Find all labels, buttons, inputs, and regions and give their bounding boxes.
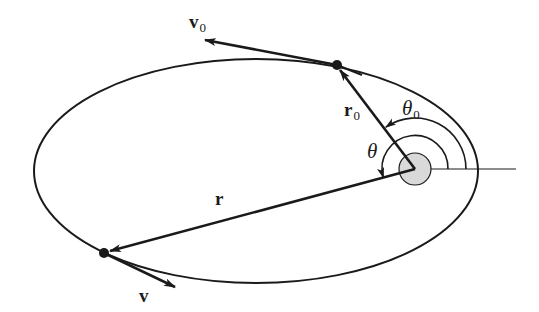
orbit-diagram [0,0,539,312]
theta0-label: θ0 [402,98,420,121]
v-label: v [139,286,149,305]
r0-label: r0 [344,100,360,122]
v-vector [104,253,175,287]
v-label-main: v [139,285,149,306]
r-vector [110,169,415,251]
theta-label-main: θ [367,139,377,163]
v0-vector [205,40,337,65]
v0-label-main: v [189,11,199,32]
current-position-point [99,248,109,258]
r-label: r [215,189,223,208]
v0-label: v0 [189,12,206,34]
theta0-label-subscript: 0 [413,107,420,122]
theta-label: θ [367,141,377,162]
initial-position-point [332,60,342,70]
r0-label-main: r [344,99,352,120]
r-label-main: r [215,188,223,209]
v0-label-subscript: 0 [200,20,207,35]
r0-label-subscript: 0 [353,108,360,123]
theta0-label-main: θ [402,96,412,120]
